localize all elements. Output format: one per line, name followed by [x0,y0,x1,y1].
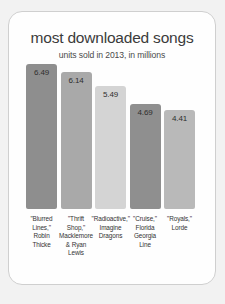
chart-title: most downloaded songs [9,29,215,47]
bar-value-label: 6.49 [26,68,57,77]
category-label-line: Shop," [57,224,95,233]
category-label-area: "BlurredLines,"RobinThicke"ThriftShop,"M… [25,215,201,285]
category-label-line: "Thrift [57,215,95,224]
category-label: "Cruise,"FloridaGeorgiaLine [126,215,164,249]
bar [61,72,92,209]
category-label-line: Georgia [126,232,164,241]
bar-column: 6.14 [61,72,92,209]
category-label-line: Line [126,241,164,250]
bar [164,110,195,209]
category-label-line: "Blurred [23,215,61,224]
bar [130,104,161,209]
bar-column: 6.49 [26,64,57,209]
bar-chart-plot-area: 6.496.145.494.694.41 [25,64,201,209]
bar-value-label: 6.14 [61,76,92,85]
category-label: "ThriftShop,"Macklemore& RyanLewis [57,215,95,258]
bar [95,86,126,209]
bar-value-label: 5.49 [95,90,126,99]
category-label-line: Robin [23,232,61,241]
category-label-line: Macklemore [57,232,95,241]
category-label-line: Lewis [57,249,95,258]
category-label-line: & Ryan [57,241,95,250]
bar-column: 4.69 [130,104,161,209]
chart-card: most downloaded songs units sold in 2013… [8,11,216,285]
bar-value-label: 4.69 [130,108,161,117]
category-label-line: Thicke [23,241,61,250]
category-label: "Radioactive,"ImagineDragons [92,215,130,241]
category-label-line: "Cruise," [126,215,164,224]
category-label-line: Lorde [161,224,199,233]
bar-column: 5.49 [95,86,126,209]
category-label-line: Dragons [92,232,130,241]
category-label-line: Florida [126,224,164,233]
category-label-line: "Royals," [161,215,199,224]
category-label: "Royals,"Lorde [161,215,199,232]
category-label-line: Lines," [23,224,61,233]
category-label-line: Imagine [92,224,130,233]
category-label: "BlurredLines,"RobinThicke [23,215,61,249]
chart-subtitle: units sold in 2013, in millions [9,50,215,60]
bar [26,64,57,209]
bar-column: 4.41 [164,110,195,209]
category-label-line: "Radioactive," [92,215,130,224]
bar-value-label: 4.41 [164,114,195,123]
